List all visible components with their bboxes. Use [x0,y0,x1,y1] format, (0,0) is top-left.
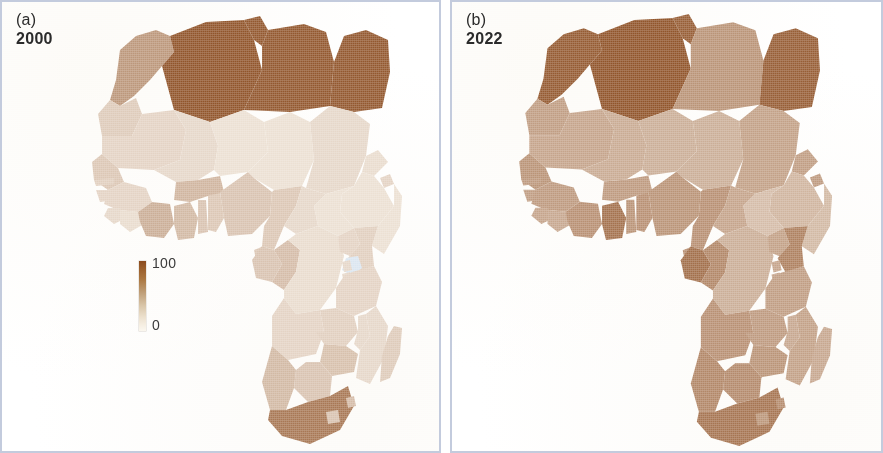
panel-b-caption: (b) 2022 [466,11,503,49]
country-ghana [602,202,626,240]
colorbar-max-label-a: 100 [152,255,176,271]
map-stage-a [2,2,439,451]
colorbar-min-label-a: 0 [152,317,160,333]
country-lesotho [326,410,340,424]
panel-gap [441,0,450,453]
panel-a-caption: (a) 2000 [16,11,53,49]
panel-a-year: 2000 [16,30,53,49]
country-shapes-2000 [92,16,402,444]
panel-b-2022: (b) 2022 [450,0,883,453]
country-ghana [174,202,198,240]
africa-choropleth-map-2022 [474,8,844,452]
country-togo [198,200,208,234]
map-stage-b [452,2,881,451]
panel-b-year: 2022 [466,30,503,49]
panel-a-2000: (a) 2000 [0,0,441,453]
africa-choropleth-map-2000 [58,10,403,450]
country-egypt [330,30,390,112]
figure-root: (a) 2000 [0,0,883,453]
panel-a-tag: (a) [16,11,53,30]
country-shapes-2022 [519,14,832,446]
country-lesotho [755,412,769,426]
country-togo [626,200,636,234]
panel-b-tag: (b) [466,11,503,30]
country-egypt [759,28,820,111]
colorbar-gradient-a [139,261,146,331]
